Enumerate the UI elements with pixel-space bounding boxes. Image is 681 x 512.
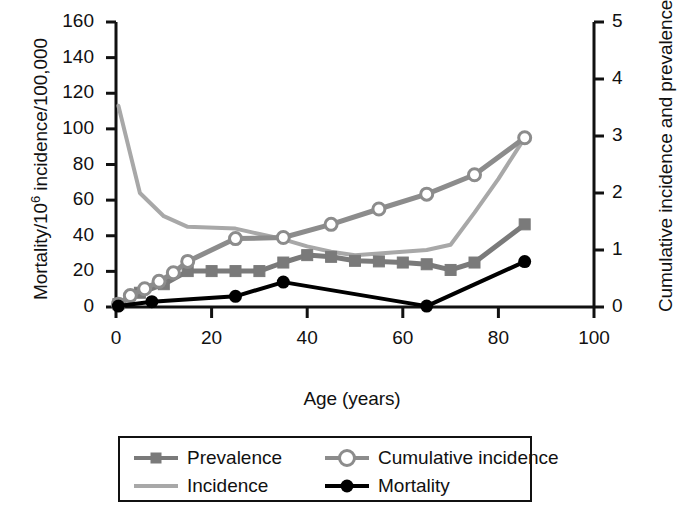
data-point-marker bbox=[278, 257, 289, 268]
plain-line bbox=[134, 476, 178, 496]
legend-label: Prevalence bbox=[187, 448, 282, 468]
data-point-marker bbox=[153, 275, 165, 287]
data-point-marker bbox=[277, 276, 290, 289]
filled-circle-marker bbox=[325, 476, 369, 496]
legend-entries: PrevalenceCumulative incidenceIncidenceM… bbox=[120, 438, 530, 500]
legend-item-incidence: Incidence bbox=[134, 473, 268, 499]
legend-item-cumulative-incidence: Cumulative incidence bbox=[325, 445, 559, 471]
data-point-marker bbox=[421, 259, 432, 270]
legend-item-prevalence: Prevalence bbox=[134, 445, 282, 471]
data-point-marker bbox=[519, 219, 530, 230]
data-point-marker bbox=[145, 295, 158, 308]
data-point-marker bbox=[277, 231, 289, 243]
data-point-marker bbox=[518, 255, 531, 268]
data-point-marker bbox=[373, 256, 384, 267]
legend-label: Cumulative incidence bbox=[378, 448, 559, 468]
data-point-marker bbox=[421, 188, 433, 200]
data-point-marker bbox=[325, 218, 337, 230]
legend-item-mortality: Mortality bbox=[325, 473, 450, 499]
data-point-marker bbox=[167, 267, 179, 279]
data-point-marker bbox=[230, 266, 241, 277]
data-series-layer bbox=[112, 106, 531, 313]
legend-open-circle-marker bbox=[338, 449, 356, 467]
data-point-marker bbox=[230, 233, 242, 245]
legend-label: Incidence bbox=[187, 476, 268, 496]
data-point-marker bbox=[397, 257, 408, 268]
legend-filled-circle-marker bbox=[341, 480, 354, 493]
data-point-marker bbox=[519, 132, 531, 144]
data-point-marker bbox=[420, 300, 433, 313]
data-point-marker bbox=[445, 264, 456, 275]
chart-legend: PrevalenceCumulative incidenceIncidenceM… bbox=[118, 436, 532, 502]
open-circle-marker bbox=[325, 448, 369, 468]
data-point-marker bbox=[139, 283, 151, 295]
data-point-marker bbox=[229, 290, 242, 303]
legend-label: Mortality bbox=[378, 476, 450, 496]
data-point-marker bbox=[206, 266, 217, 277]
data-point-marker bbox=[469, 257, 480, 268]
data-point-marker bbox=[326, 251, 337, 262]
data-point-marker bbox=[254, 266, 265, 277]
square-marker bbox=[134, 448, 178, 468]
data-point-marker bbox=[302, 250, 313, 261]
data-point-marker bbox=[350, 255, 361, 266]
series-prevalence bbox=[113, 219, 530, 310]
legend-square-marker bbox=[151, 453, 162, 464]
data-point-marker bbox=[469, 169, 481, 181]
data-point-marker bbox=[373, 203, 385, 215]
data-point-marker bbox=[112, 300, 125, 313]
data-point-marker bbox=[182, 255, 194, 267]
data-point-marker bbox=[124, 290, 136, 302]
